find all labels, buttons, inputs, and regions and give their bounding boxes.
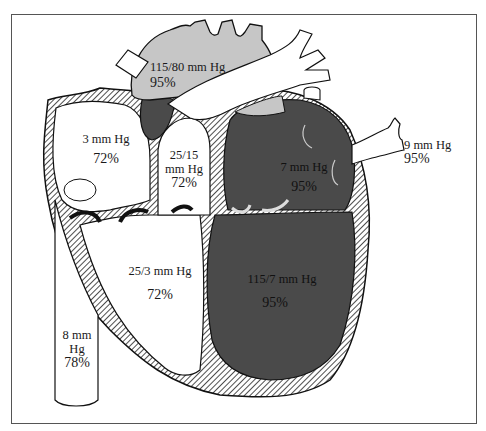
right-atrium-saturation: 72% <box>66 152 146 166</box>
pulmonary-veins-label: 9 mm Hg 95% <box>404 138 451 166</box>
left-ventricle-saturation: 95% <box>218 296 332 310</box>
pulmonary-veins-saturation: 95% <box>404 152 451 166</box>
ivc-saturation: 78% <box>56 356 98 370</box>
left-ventricle-label: 115/7 mm Hg 95% <box>232 272 332 310</box>
right-ventricle-saturation: 72% <box>110 288 210 302</box>
vessel-stub <box>304 87 320 100</box>
pulmonary-artery-pressure-1: 25/15 <box>158 148 210 162</box>
ivc-pressure-1: 8 mm <box>56 328 98 342</box>
aorta-label: 115/80 mm Hg 95% <box>150 60 225 90</box>
right-atrium-pressure: 3 mm Hg <box>66 132 146 146</box>
right-atrium-label: 3 mm Hg 72% <box>66 132 146 166</box>
aorta-saturation: 95% <box>150 76 225 90</box>
pulmonary-artery-saturation: 72% <box>158 176 210 190</box>
right-ventricle-label: 25/3 mm Hg 72% <box>110 264 210 302</box>
right-ventricle-pressure: 25/3 mm Hg <box>110 264 210 278</box>
left-atrium-saturation: 95% <box>268 180 340 194</box>
inferior-vena-cava-label: 8 mm Hg 78% <box>56 328 98 370</box>
left-atrium-label: 7 mm Hg 95% <box>268 160 340 194</box>
pulmonary-veins <box>352 118 404 164</box>
pulmonary-artery-label: 25/15 mm Hg 72% <box>158 148 210 190</box>
left-ventricle-pressure: 115/7 mm Hg <box>232 272 332 286</box>
pulmonary-artery-pressure-2: mm Hg <box>158 162 210 176</box>
aorta-pressure: 115/80 mm Hg <box>150 60 225 74</box>
ivc-pressure-2: Hg <box>56 342 98 356</box>
pulmonary-veins-pressure: 9 mm Hg <box>404 138 451 152</box>
left-atrium-pressure: 7 mm Hg <box>268 160 340 174</box>
